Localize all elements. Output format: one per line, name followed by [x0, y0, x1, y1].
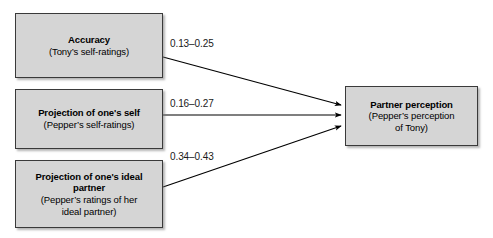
node-projection-ideal: Projection of one's ideal partner (Peppe…: [15, 160, 163, 228]
node-partner-perception-subtitle-line2: of Tony): [395, 122, 428, 134]
edge-label-accuracy: 0.13–0.25: [170, 38, 214, 49]
node-partner-perception: Partner perception (Pepper’s perception …: [345, 86, 478, 146]
node-partner-perception-subtitle-line1: (Pepper’s perception: [369, 110, 455, 122]
node-projection-ideal-title: Projection of one's ideal partner: [20, 171, 158, 194]
path-diagram: Accuracy (Tony’s self-ratings) Projectio…: [0, 0, 493, 238]
node-partner-perception-title: Partner perception: [370, 99, 453, 111]
edge-label-projection-self: 0.16–0.27: [170, 98, 214, 109]
node-projection-ideal-subtitle-line2: ideal partner): [62, 206, 117, 218]
node-projection-self-subtitle: (Pepper’s self-ratings): [44, 119, 135, 131]
node-accuracy: Accuracy (Tony’s self-ratings): [15, 13, 163, 78]
node-accuracy-subtitle: (Tony’s self-ratings): [49, 46, 129, 58]
node-projection-self: Projection of one's self (Pepper’s self-…: [15, 89, 163, 149]
node-accuracy-title: Accuracy: [68, 34, 110, 46]
edge-label-projection-ideal: 0.34–0.43: [170, 151, 214, 162]
node-projection-self-title: Projection of one's self: [38, 107, 140, 119]
node-projection-ideal-subtitle-line1: (Pepper’s ratings of her: [41, 194, 138, 206]
